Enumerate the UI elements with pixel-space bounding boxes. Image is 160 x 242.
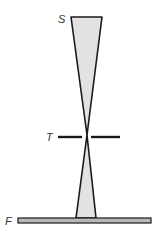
beam-diagram: S T F [0,0,160,242]
lower-beam-cone [76,135,96,218]
source-label: S [58,13,66,25]
target-label: T [46,131,54,143]
upper-beam-cone [71,17,102,135]
film-plate [18,218,151,223]
film-label: F [5,215,13,227]
